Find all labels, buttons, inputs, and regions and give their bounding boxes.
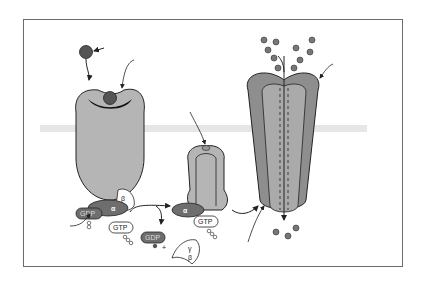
svg-text:α: α (183, 207, 188, 214)
metabotropic-receptor (76, 89, 145, 200)
svg-text:GTP: GTP (198, 218, 213, 225)
svg-text:GDP: GDP (145, 234, 161, 241)
svg-text:γ: γ (188, 245, 192, 253)
beta-gamma-subunit: γ β (172, 240, 199, 264)
neurotransmitter-molecule (80, 46, 93, 59)
signaling-diagram: β α GDP GTP GDP + γ β α GTP (0, 0, 446, 296)
metabotropic-ion-channel (247, 56, 319, 220)
released-gdp: GDP + (141, 232, 166, 251)
bound-neurotransmitter (104, 92, 117, 105)
svg-text:GDP: GDP (80, 210, 96, 217)
svg-text:+: + (162, 244, 166, 251)
svg-text:GTP: GTP (113, 224, 128, 231)
svg-text:β: β (188, 254, 192, 262)
effector-protein: α GTP (172, 146, 228, 239)
gtp-molecule: GTP (109, 222, 133, 245)
svg-text:α: α (111, 205, 116, 212)
